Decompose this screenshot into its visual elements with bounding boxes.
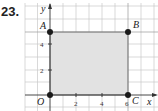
x-axis-label: x (146, 96, 152, 107)
y-axis-label: y (40, 3, 46, 14)
y-tick-4: 4 (40, 41, 44, 49)
point-c (125, 92, 131, 98)
shaded-rectangle (50, 32, 128, 95)
point-b (125, 29, 131, 35)
point-o-label: O (37, 96, 44, 107)
x-tick-2: 2 (74, 100, 78, 108)
point-c-label: C (132, 95, 139, 106)
x-tick-6: 6 (125, 100, 129, 108)
point-o (47, 92, 53, 98)
point-a-label: A (39, 20, 47, 31)
coordinate-plane: 2 4 6 2 4 y x A B C O (0, 0, 158, 111)
y-tick-2: 2 (40, 67, 44, 75)
x-tick-4: 4 (100, 100, 104, 108)
x-axis-arrow-icon (152, 93, 158, 97)
point-b-label: B (133, 19, 139, 30)
point-a (47, 29, 53, 35)
